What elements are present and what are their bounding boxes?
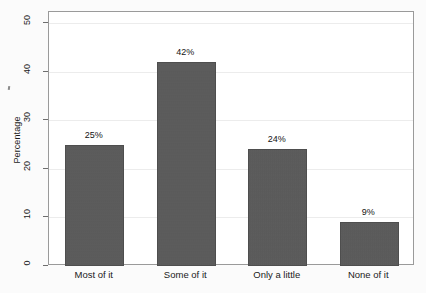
bar-value-label: 24%: [247, 134, 307, 144]
x-category-label: None of it: [318, 269, 418, 280]
y-tick-mark: [43, 265, 48, 266]
bar-value-label: 42%: [155, 47, 215, 57]
bar-chart-figure: Percentage 01020304050 25%42%24%9% Most …: [0, 0, 426, 293]
y-tick-label: 20: [22, 155, 32, 177]
y-axis-title: Percentage: [12, 65, 22, 215]
gridline: [49, 72, 413, 73]
bar: [248, 149, 307, 266]
gridline: [49, 23, 413, 24]
x-category-label: Some of it: [135, 269, 235, 280]
gridline: [49, 120, 413, 121]
y-tick-label: 30: [22, 106, 32, 128]
x-category-label: Only a little: [227, 269, 327, 280]
scan-artifact: [8, 86, 11, 90]
bar-value-label: 25%: [64, 130, 124, 140]
y-tick-label: 0: [22, 252, 32, 274]
y-tick-label: 50: [22, 9, 32, 31]
x-category-label: Most of it: [44, 269, 144, 280]
y-tick-label: 10: [22, 203, 32, 225]
bar-value-label: 9%: [338, 207, 398, 217]
bar: [65, 145, 124, 267]
bar: [340, 222, 399, 266]
y-tick-label: 40: [22, 58, 32, 80]
bar: [157, 62, 216, 266]
